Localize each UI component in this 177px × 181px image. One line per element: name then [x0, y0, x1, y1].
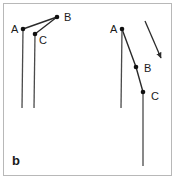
motion-arrow-icon: [145, 21, 161, 58]
segment-b-to-c: [136, 67, 143, 92]
vertex-point-c: [141, 90, 146, 95]
segment-c-to-b: [35, 17, 57, 34]
stem-line-c: [34, 34, 35, 108]
figure-drawing: A B C A B C: [0, 0, 177, 181]
right-diagram: A B C: [110, 21, 161, 166]
right-diagram-arrow: [145, 21, 161, 58]
figure-panel-b: A B C A B C: [0, 0, 177, 181]
left-diagram-segments: [22, 17, 57, 108]
vertex-label-b: B: [144, 62, 151, 74]
vertex-label-c: C: [39, 34, 47, 46]
panel-label: b: [12, 153, 20, 168]
vertex-label-a: A: [11, 23, 19, 35]
segment-a-to-b: [122, 29, 136, 67]
segment-a-to-b: [23, 17, 57, 29]
vertex-label-a: A: [110, 23, 118, 35]
vertex-point-b: [55, 15, 60, 20]
right-diagram-segments: [121, 29, 143, 166]
stem-line-a: [121, 29, 122, 108]
left-diagram: A B C: [11, 11, 71, 108]
stem-line-a: [22, 29, 23, 108]
vertex-point-a: [21, 27, 26, 32]
vertex-label-b: B: [64, 11, 71, 23]
vertex-point-b: [134, 65, 139, 70]
vertex-point-c: [33, 32, 38, 37]
vertex-label-c: C: [151, 90, 159, 102]
vertex-point-a: [120, 27, 125, 32]
